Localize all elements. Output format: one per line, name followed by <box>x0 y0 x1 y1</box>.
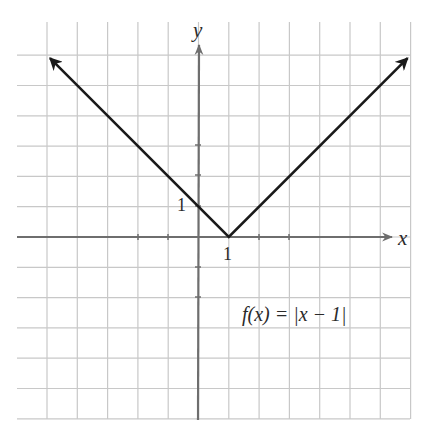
y-tick-label-1: 1 <box>177 195 186 216</box>
graph-canvas <box>0 0 421 423</box>
y-axis-label: y <box>193 18 202 43</box>
y-axis <box>198 45 199 420</box>
x-tick-label-1: 1 <box>223 244 232 265</box>
function-label: f(x) = |x − 1| <box>242 303 347 326</box>
function-label-text: f(x) = |x − 1| <box>242 303 347 325</box>
x-axis-label: x <box>398 226 407 251</box>
